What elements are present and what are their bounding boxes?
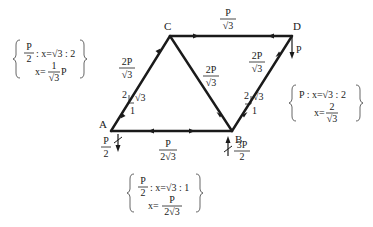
svg-text:P: P <box>26 41 32 52</box>
arrow-down-icon <box>116 145 121 152</box>
svg-text:P: P <box>225 7 231 18</box>
svg-text:P : x=√3 : 2: P : x=√3 : 2 <box>299 89 346 100</box>
svg-text:1: 1 <box>252 105 257 116</box>
svg-text:2P: 2P <box>122 56 133 67</box>
force-label-ac: 2P √3 <box>119 56 135 80</box>
svg-text:√3: √3 <box>122 69 133 80</box>
svg-text:2: 2 <box>27 53 32 64</box>
svg-text:2: 2 <box>244 90 249 101</box>
member-cb <box>170 36 232 131</box>
note-left: P 2 : x=√3 : 2 x= 1 √3 P <box>13 40 87 83</box>
svg-text:: x=√3 : 1: : x=√3 : 1 <box>150 182 189 193</box>
svg-text:x=: x= <box>148 200 159 211</box>
svg-text:x=: x= <box>35 66 46 77</box>
svg-text:P: P <box>140 175 146 186</box>
node-label-d: D <box>293 20 301 32</box>
node-label-a: A <box>99 118 107 130</box>
arrow-down-icon <box>290 52 295 59</box>
svg-text:√3: √3 <box>253 91 264 102</box>
svg-text:√3: √3 <box>327 113 338 124</box>
svg-text:P: P <box>165 138 171 149</box>
force-label-cb: 2P √3 <box>203 64 219 88</box>
load-arrow-d: P <box>290 37 303 59</box>
svg-text:√3: √3 <box>49 72 60 83</box>
svg-text:2P: 2P <box>252 50 263 61</box>
svg-text:√3: √3 <box>252 63 263 74</box>
arrow-up-icon <box>226 136 231 143</box>
svg-text:P: P <box>103 135 109 146</box>
svg-text:2: 2 <box>122 89 127 100</box>
svg-text:: x=√3 : 2: : x=√3 : 2 <box>36 48 75 59</box>
force-label-ab: P 2√3 <box>159 138 177 162</box>
svg-text:1: 1 <box>130 105 135 116</box>
note-bottom: P 2 : x=√3 : 1 x= P 2√3 <box>127 174 203 217</box>
reaction-a: P 2 <box>101 134 122 159</box>
svg-text:P: P <box>61 66 67 77</box>
svg-text:√3: √3 <box>206 77 217 88</box>
slope-triangle-bd: 2 √3 1 <box>244 90 264 116</box>
svg-text:√3: √3 <box>135 92 146 103</box>
note-right: P : x=√3 : 2 x= 2 √3 <box>289 85 363 124</box>
force-label-bd: 2P √3 <box>249 50 265 74</box>
svg-text:3P: 3P <box>237 139 248 150</box>
truss-members <box>111 36 292 131</box>
svg-text:P: P <box>296 44 302 55</box>
svg-text:2: 2 <box>330 101 335 112</box>
svg-text:2: 2 <box>104 148 109 159</box>
svg-text:2√3: 2√3 <box>164 206 180 217</box>
svg-text:x=: x= <box>314 107 325 118</box>
svg-text:2: 2 <box>240 151 245 162</box>
svg-text:2√3: 2√3 <box>160 151 176 162</box>
member-ac <box>111 36 170 131</box>
force-label-cd: P √3 <box>220 7 236 31</box>
svg-text:P: P <box>169 194 175 205</box>
reaction-b: 3P 2 <box>224 136 250 162</box>
truss-diagram: C D A B P √3 2P √3 2 √3 1 2P √3 2P √3 2 … <box>0 0 373 227</box>
svg-text:2P: 2P <box>206 64 217 75</box>
node-label-c: C <box>164 20 171 32</box>
svg-text:1: 1 <box>52 60 57 71</box>
svg-text:2: 2 <box>141 187 146 198</box>
svg-text:√3: √3 <box>223 20 234 31</box>
